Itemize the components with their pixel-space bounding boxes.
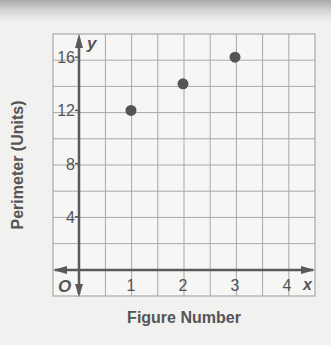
x-tick-label: 1 (127, 277, 136, 294)
y-tick-label: 8 (66, 156, 75, 173)
scatter-plot: 4812161234Oyx (0, 0, 331, 345)
data-point (178, 78, 189, 89)
grid-lines (53, 34, 315, 296)
x-tick-label: 4 (283, 277, 292, 294)
x-tick-label: 2 (179, 277, 188, 294)
y-tick-label: 12 (57, 102, 75, 119)
origin-label: O (58, 277, 71, 296)
y-tick-label: 16 (57, 49, 75, 66)
data-point (230, 52, 241, 63)
y-tick-label: 4 (66, 209, 75, 226)
x-axis-symbol: x (302, 276, 313, 293)
data-point (126, 105, 137, 116)
y-axis-label: Perimeter (Units) (9, 101, 27, 230)
x-axis-label: Figure Number (127, 309, 241, 327)
x-tick-label: 3 (231, 277, 240, 294)
y-axis-symbol: y (86, 34, 98, 53)
